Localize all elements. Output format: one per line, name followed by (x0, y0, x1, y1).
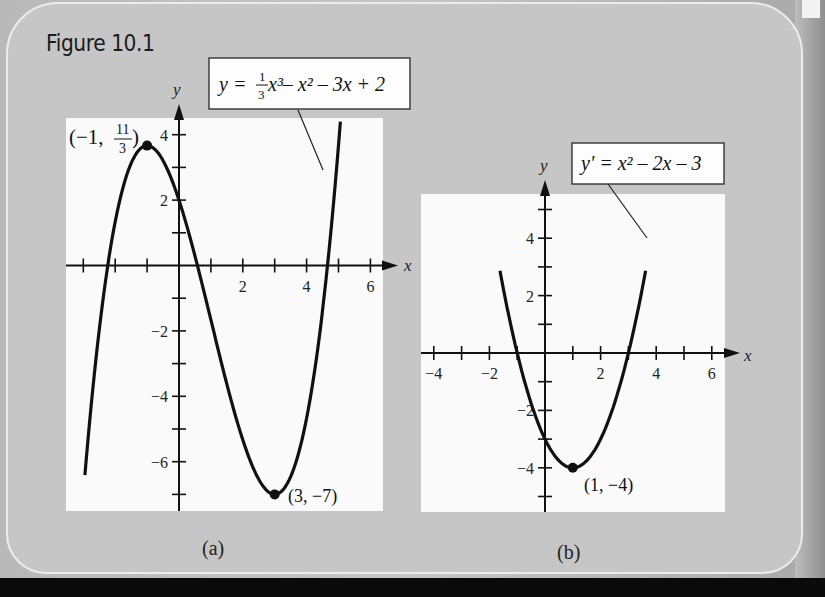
plot-b: −4−224642−2−4 y' = x² – 2x – 3 y x (1, −… (421, 143, 752, 512)
plot-a-label-rest: x³– x² – 3x + 2 (267, 73, 385, 95)
plot-a-max-frac-num: 11 (116, 122, 129, 137)
svg-text:2: 2 (597, 365, 605, 382)
plot-a-max-close: ) (132, 125, 139, 149)
svg-text:−4: −4 (425, 365, 442, 382)
plot-a-max-label: (−1, (69, 125, 104, 149)
plot-a-label-prefix: y = (217, 73, 246, 96)
plot-a: 24642−2−4−6 y = 1 3 x³– x² – 3x + 2 y x … (66, 58, 412, 511)
plot-a-min-label: (3, −7) (288, 486, 337, 507)
svg-text:−6: −6 (151, 454, 168, 471)
plot-a-label-frac-den: 3 (258, 87, 265, 102)
svg-text:4: 4 (160, 127, 168, 144)
plot-b-x-axis-label: x (743, 346, 752, 365)
svg-text:4: 4 (303, 278, 311, 295)
svg-text:2: 2 (160, 192, 168, 209)
plot-b-min-label: (1, −4) (584, 475, 633, 496)
caption-a: (a) (202, 537, 224, 560)
plot-b-label-text: y' = x² – 2x – 3 (579, 152, 701, 175)
svg-text:2: 2 (526, 288, 534, 305)
svg-text:6: 6 (708, 365, 716, 382)
svg-text:4: 4 (652, 365, 660, 382)
plot-a-y-axis-label: y (171, 80, 181, 99)
svg-text:6: 6 (366, 278, 374, 295)
caption-b: (b) (557, 541, 580, 564)
svg-text:−4: −4 (151, 388, 168, 405)
plot-b-y-axis-label: y (538, 156, 548, 175)
plot-a-x-axis-label: x (403, 256, 412, 275)
svg-text:4: 4 (526, 230, 534, 247)
figure-plots: 24642−2−4−6 y = 1 3 x³– x² – 3x + 2 y x … (0, 0, 825, 597)
svg-text:−2: −2 (481, 365, 498, 382)
plot-b-points (568, 463, 578, 473)
svg-text:−2: −2 (151, 323, 168, 340)
plot-a-max-frac-den: 3 (119, 141, 126, 156)
plot-a-label-frac-num: 1 (259, 69, 266, 84)
svg-text:−4: −4 (517, 460, 534, 477)
svg-text:2: 2 (239, 278, 247, 295)
